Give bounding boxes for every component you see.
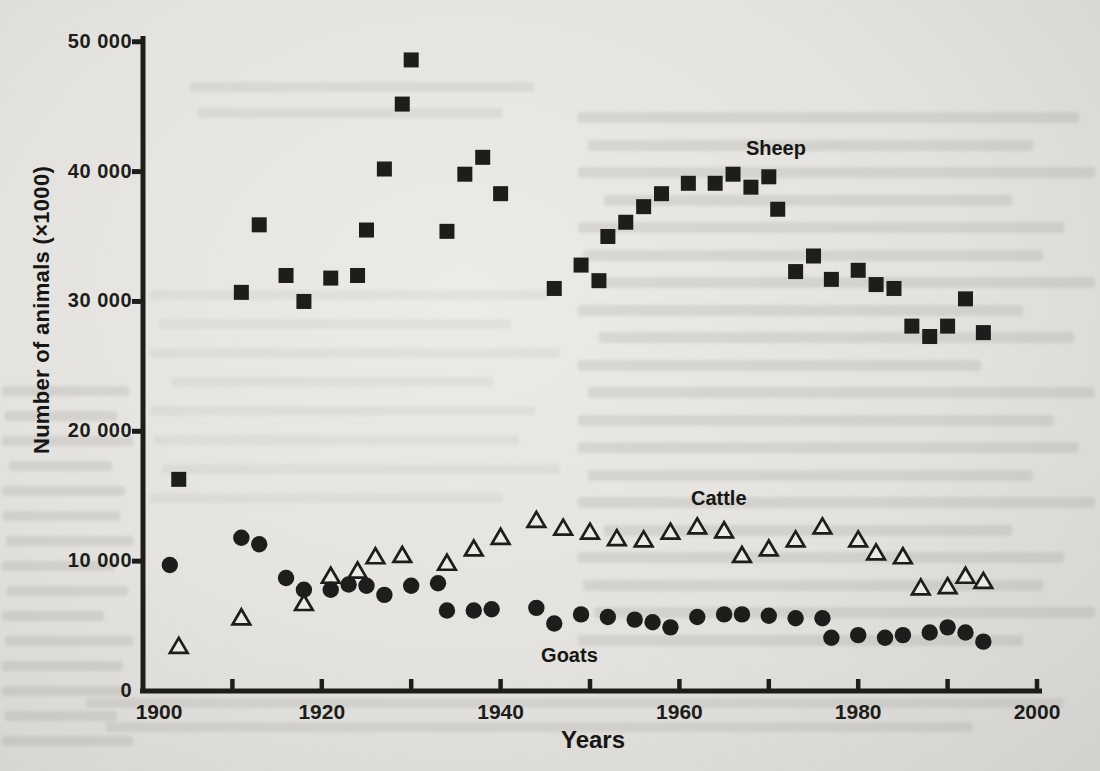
- goats-point: [644, 614, 660, 630]
- cattle-point: [733, 547, 751, 562]
- scanned-book-page: Number of animals (×1000) Years Sheep Ca…: [0, 0, 1100, 771]
- goats-point: [600, 609, 616, 625]
- goats-point: [823, 630, 839, 646]
- sheep-point: [547, 281, 562, 296]
- goats-point: [761, 607, 777, 623]
- goats-point: [233, 530, 249, 546]
- cattle-point: [528, 512, 546, 527]
- x-tick-label: 2000: [992, 700, 1082, 724]
- sheep-point: [395, 97, 410, 112]
- sheep-point: [591, 273, 606, 288]
- cattle-point: [688, 518, 706, 533]
- goats-point: [877, 630, 893, 646]
- sheep-point: [636, 199, 651, 214]
- goats-point: [358, 578, 374, 594]
- goats-point: [734, 606, 750, 622]
- goats-point: [483, 601, 499, 617]
- goats-point: [162, 557, 178, 573]
- series-label-cattle: Cattle: [691, 486, 747, 509]
- x-tick-label: 1960: [634, 700, 724, 724]
- cattle-point: [393, 547, 411, 562]
- cattle-point: [554, 520, 572, 535]
- sheep-point: [574, 258, 589, 273]
- sheep-point: [726, 167, 741, 182]
- cattle-point: [867, 544, 885, 559]
- sheep-point: [904, 319, 919, 334]
- y-tick-label: 50 000: [0, 30, 132, 53]
- goats-point: [939, 619, 955, 635]
- goats-point: [430, 575, 446, 591]
- sheep-point: [493, 186, 508, 201]
- goats-point: [340, 576, 356, 592]
- y-tick-label: 40 000: [0, 160, 132, 183]
- goats-point: [296, 582, 312, 598]
- x-tick-label: 1920: [277, 700, 367, 724]
- cattle-point: [322, 568, 340, 583]
- cattle-point: [367, 548, 385, 563]
- sheep-point: [886, 281, 901, 296]
- sheep-point: [922, 329, 937, 344]
- cattle-point: [492, 529, 510, 544]
- goats-point: [850, 627, 866, 643]
- sheep-point: [708, 176, 723, 191]
- sheep-point: [171, 472, 186, 487]
- goats-point: [573, 606, 589, 622]
- sheep-point: [234, 285, 249, 300]
- cattle-point: [849, 531, 867, 546]
- sheep-point: [323, 271, 338, 286]
- sheep-point: [958, 291, 973, 306]
- sheep-point: [761, 169, 776, 184]
- y-tick-label: 10 000: [0, 549, 132, 572]
- sheep-point: [824, 272, 839, 287]
- cattle-point: [438, 555, 456, 570]
- cattle-point: [814, 518, 832, 533]
- x-tick-label: 1980: [813, 700, 903, 724]
- y-tick-label: 0: [0, 679, 132, 702]
- y-tick-label: 20 000: [0, 419, 132, 442]
- y-tick-label: 30 000: [0, 289, 132, 312]
- series-label-goats: Goats: [541, 643, 598, 666]
- cattle-point: [662, 524, 680, 539]
- x-tick-label: 1940: [456, 700, 546, 724]
- goats-point: [251, 536, 267, 552]
- sheep-point: [976, 325, 991, 340]
- cattle-point: [170, 638, 188, 653]
- cattle-point: [787, 531, 805, 546]
- goats-point: [975, 633, 991, 649]
- sheep-point: [806, 249, 821, 264]
- cattle-point: [894, 548, 912, 563]
- goats-point: [439, 602, 455, 618]
- sheep-point: [851, 263, 866, 278]
- goats-point: [662, 619, 678, 635]
- goats-point: [278, 570, 294, 586]
- goats-point: [689, 609, 705, 625]
- x-axis-title: Years: [561, 726, 625, 754]
- sheep-point: [475, 150, 490, 165]
- series-label-sheep: Sheep: [746, 137, 806, 160]
- sheep-point: [279, 268, 294, 283]
- cattle-point: [939, 578, 957, 593]
- goats-point: [546, 615, 562, 631]
- cattle-point: [975, 573, 993, 588]
- sheep-point: [654, 186, 669, 201]
- sheep-point: [350, 268, 365, 283]
- cattle-point: [349, 563, 367, 578]
- cattle-point: [233, 609, 251, 624]
- sheep-point: [377, 162, 392, 177]
- goats-point: [922, 624, 938, 640]
- cattle-point: [608, 530, 626, 545]
- sheep-point: [788, 264, 803, 279]
- x-tick-label: 1900: [114, 700, 204, 724]
- sheep-point: [869, 277, 884, 292]
- sheep-point: [439, 224, 454, 239]
- sheep-point: [618, 215, 633, 230]
- sheep-point: [457, 167, 472, 182]
- goats-point: [957, 624, 973, 640]
- sheep-point: [296, 294, 311, 309]
- sheep-point: [359, 223, 374, 238]
- sheep-point: [404, 52, 419, 67]
- goats-point: [403, 578, 419, 594]
- goats-point: [323, 582, 339, 598]
- cattle-point: [581, 524, 599, 539]
- goats-point: [814, 610, 830, 626]
